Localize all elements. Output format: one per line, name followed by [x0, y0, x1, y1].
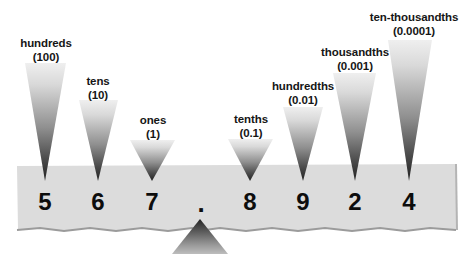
pointer-hundreds — [25, 63, 66, 181]
label-tenths: tenths (0.1) — [218, 112, 284, 140]
label-ones-value: (1) — [122, 127, 184, 141]
digit-hundredths: 9 — [290, 190, 316, 214]
digit-ones: 7 — [139, 190, 165, 214]
label-hundredths-value: (0.01) — [262, 93, 344, 107]
label-tens-name: tens — [66, 74, 130, 88]
label-hundreds-value: (100) — [7, 50, 85, 64]
label-thousandths-value: (0.001) — [312, 59, 398, 73]
digit-thousandths: 2 — [342, 190, 368, 214]
label-ones-name: ones — [122, 113, 184, 127]
label-hundreds-name: hundreds — [7, 36, 85, 50]
label-ten-thousandths-name: ten-thousandths — [358, 10, 470, 24]
label-ten-thousandths: ten-thousandths (0.0001) — [358, 10, 470, 38]
label-ten-thousandths-value: (0.0001) — [358, 24, 470, 38]
label-ones: ones (1) — [122, 113, 184, 141]
label-hundredths: hundredths (0.01) — [262, 79, 344, 107]
digit-tenths: 8 — [237, 190, 263, 214]
digit-ten-thousandths: 4 — [396, 190, 422, 214]
label-tens: tens (10) — [66, 74, 130, 102]
label-hundreds: hundreds (100) — [7, 36, 85, 64]
label-hundredths-name: hundredths — [262, 79, 344, 93]
label-thousandths-name: thousandths — [312, 45, 398, 59]
digit-hundreds: 5 — [32, 190, 58, 214]
digit-tens: 6 — [85, 190, 111, 214]
label-tenths-name: tenths — [218, 112, 284, 126]
label-tens-value: (10) — [66, 88, 130, 102]
place-value-diagram: hundreds (100) tens (10) ones (1) tenths… — [0, 0, 473, 254]
label-thousandths: thousandths (0.001) — [312, 45, 398, 73]
label-tenths-value: (0.1) — [218, 126, 284, 140]
digit-decimal-point: . — [188, 190, 214, 216]
